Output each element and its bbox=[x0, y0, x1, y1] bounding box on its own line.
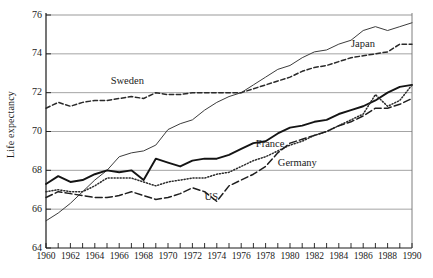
life-expectancy-line-chart: Life expectancy 64666870727476 196019621… bbox=[0, 0, 433, 278]
y-tick-label-70: 70 bbox=[20, 125, 42, 136]
y-tick-label-72: 72 bbox=[20, 86, 42, 97]
series-label-france: France bbox=[256, 138, 285, 149]
series-label-japan: Japan bbox=[351, 38, 375, 49]
y-tick-label-66: 66 bbox=[20, 203, 42, 214]
y-tick-label-74: 74 bbox=[20, 47, 42, 58]
series-line-japan bbox=[46, 23, 412, 221]
x-tick-label-1990: 1990 bbox=[395, 251, 429, 261]
series-label-us: US bbox=[205, 191, 218, 202]
series-label-sweden: Sweden bbox=[111, 75, 144, 86]
y-tick-label-68: 68 bbox=[20, 164, 42, 175]
series-label-germany: Germany bbox=[278, 157, 317, 168]
y-tick-label-76: 76 bbox=[20, 9, 42, 20]
series-line-us bbox=[46, 98, 412, 201]
